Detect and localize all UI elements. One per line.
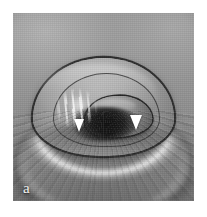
radial-striations — [13, 111, 194, 201]
panel-label: a — [23, 181, 30, 196]
arrowhead-left-icon — [74, 119, 84, 132]
arrowhead-right-icon — [130, 115, 142, 130]
figure-root: a — [0, 0, 207, 217]
endoscopic-image-panel — [13, 13, 194, 201]
